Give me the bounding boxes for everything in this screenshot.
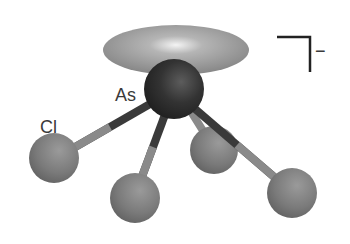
cl-label: Cl bbox=[40, 117, 57, 137]
charge-sign: − bbox=[315, 41, 326, 61]
ascl4-molecule-diagram: As Cl − bbox=[0, 0, 350, 244]
as-atom bbox=[144, 59, 204, 119]
cl-atom-1 bbox=[29, 133, 79, 183]
cl-atom-4 bbox=[267, 168, 317, 218]
cl-atom-2 bbox=[110, 173, 160, 223]
charge-bracket bbox=[277, 37, 310, 72]
as-label: As bbox=[115, 85, 136, 105]
cl-atom-3 bbox=[190, 126, 238, 174]
